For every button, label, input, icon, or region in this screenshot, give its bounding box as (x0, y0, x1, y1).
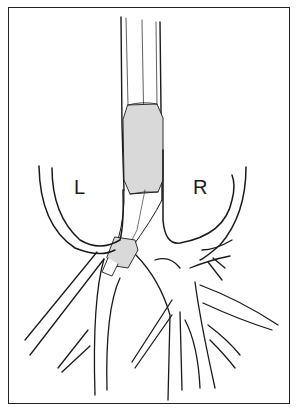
left-lung-label: L (74, 176, 85, 199)
airway-diagram (0, 0, 298, 410)
right-lung-label: R (193, 176, 207, 199)
bronchial-tree (25, 240, 278, 400)
tracheal-cuff-icon (123, 103, 163, 194)
right-lung-outline (163, 150, 246, 260)
bronchial-cuff-icon (102, 237, 138, 276)
